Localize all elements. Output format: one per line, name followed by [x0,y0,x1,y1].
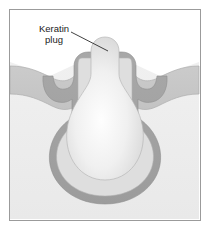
keratin-plug-label-line1: Keratin [39,23,69,34]
figure-frame: Keratin plug [9,9,201,221]
figure-root: Keratin plug [0,0,212,232]
hair-follicle-illustration: Keratin plug [10,10,200,220]
keratin-plug-label-line2: plug [45,34,63,45]
